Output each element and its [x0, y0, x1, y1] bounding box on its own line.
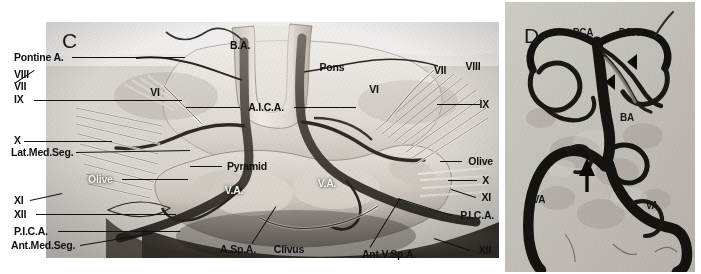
panel-d-letter: D: [524, 25, 539, 46]
panel-c-label-cn12-left-leader-line: [36, 214, 176, 215]
panel-c-label-clivus: Clivus: [274, 244, 304, 255]
panel-c-label-cn7-left: VII: [14, 81, 26, 92]
panel-c-label-ant-med-seg: Ant.Med.Seg.: [11, 240, 75, 251]
panel-c-label-olive-right: Olive: [468, 156, 493, 167]
panel-c-label-pica-left-leader-line: [58, 231, 180, 232]
panel-d-label-ba: BA: [620, 113, 634, 123]
panel-c-label-cn10-left-leader-line: [24, 141, 112, 142]
panel-c-label-pica-right: P.I.C.A.: [460, 210, 494, 221]
panel-c-label-ant-v-sp-a: Ant.V.Sp.A.: [362, 249, 416, 260]
panel-c-label-pyramid-leader-line: [190, 166, 222, 167]
panel-c-label-cn12-right: XII: [479, 245, 491, 256]
panel-c-label-cn11-right: XI: [481, 192, 491, 203]
panel-c-label-cn7-right: VII: [434, 65, 446, 76]
panel-c-label-cn8-left: VIII: [14, 69, 29, 80]
panel-c-label-cn8-right: VIII: [466, 61, 481, 72]
panel-c-label-cn9-right-leader-line: [437, 104, 480, 105]
panel-c-label-lat-med-seg: Lat.Med.Seg.: [11, 147, 73, 158]
panel-c-label-cn6-right: VI: [369, 84, 379, 95]
panel-c-label-cn10-left: X: [14, 135, 21, 146]
panel-c-label-pontine-a-leader-line: [72, 57, 185, 58]
panel-c-label-cn12-left: XII: [14, 209, 26, 220]
panel-c-label-olive-left: Olive: [88, 174, 113, 185]
panel-c-letter: C: [62, 30, 77, 51]
panel-c-label-cn9-right: IX: [479, 99, 489, 110]
panel-c-label-pons: Pons: [320, 62, 345, 73]
panel-c-label-pyramid: Pyramid: [227, 161, 267, 172]
panel-c-label-asp-a: A.Sp.A.: [220, 244, 256, 255]
panel-c-label-olive-right-leader-line: [440, 161, 462, 162]
panel-d-label-pca-right: PCA: [619, 28, 640, 38]
panel-c-label-cn6-left: VI: [150, 87, 160, 98]
panel-c-label-va-right: V.A.: [318, 178, 337, 189]
panel-c-label-va-left: V.A.: [225, 185, 244, 196]
figure-container: CPontine A.VIIIVIIIXXLat.Med.Seg.OliveXI…: [0, 0, 701, 274]
panel-c-label-cn10-right: X: [482, 175, 489, 186]
panel-c-label-aica: A.I.C.A.: [248, 102, 284, 113]
panel-c-label-basilar-artery: B.A.: [230, 40, 250, 51]
panel-c-label-cn11-left: XI: [14, 195, 24, 206]
panel-d-label-va-right: VA: [646, 201, 659, 211]
panel-c-label-aica-right-lead-leader-line: [294, 107, 356, 108]
panel-c-label-aica-leader-line: [186, 107, 240, 108]
panel-d-label-va-left: VA: [533, 195, 546, 205]
panel-c-label-cn10-right-leader-line: [448, 180, 477, 181]
panel-c-label-pica-left: P.I.C.A.: [14, 226, 48, 237]
panel-c-label-cn9-left-leader-line: [34, 100, 182, 101]
panel-c-label-pontine-a: Pontine A.: [14, 52, 64, 63]
panel-c-label-cn9-left: IX: [14, 94, 24, 105]
panel-c-label-olive-left-leader-line: [122, 179, 188, 180]
panel-d-label-pca-left: PCA: [573, 28, 594, 38]
